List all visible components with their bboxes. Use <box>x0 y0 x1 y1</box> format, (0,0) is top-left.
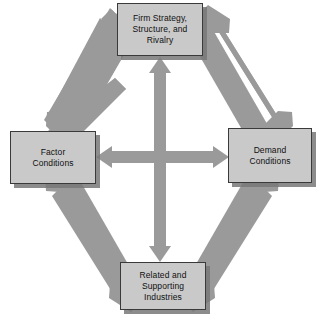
node-firm-strategy-label: Firm Strategy, Structure, and Rivalry <box>130 13 191 46</box>
node-firm-strategy[interactable]: Firm Strategy, Structure, and Rivalry <box>117 3 203 56</box>
porter-diamond-diagram: Firm Strategy, Structure, and Rivalry Fa… <box>0 0 325 317</box>
node-factor-conditions-label: Factor Conditions <box>29 147 76 169</box>
node-demand-conditions[interactable]: Demand Conditions <box>228 128 312 183</box>
node-related-supporting-industries[interactable]: Related and Supporting Industries <box>120 262 206 310</box>
node-related-supporting-industries-label: Related and Supporting Industries <box>137 270 190 303</box>
node-demand-conditions-label: Demand Conditions <box>246 145 293 167</box>
node-factor-conditions[interactable]: Factor Conditions <box>10 131 96 184</box>
